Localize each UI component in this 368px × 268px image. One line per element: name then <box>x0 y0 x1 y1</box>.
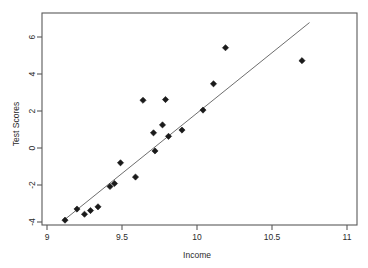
x-tick-label: 9.5 <box>116 232 128 242</box>
x-axis-title: Income <box>183 250 211 260</box>
y-tick-label: -2 <box>27 181 37 189</box>
figure-background <box>0 0 368 268</box>
x-tick-label: 10 <box>192 232 202 242</box>
y-tick-label: -4 <box>27 218 37 226</box>
y-tick-label: 6 <box>27 34 37 39</box>
x-tick-label: 9 <box>45 232 50 242</box>
y-axis-title: Test Scores <box>11 102 21 146</box>
plot-canvas: 99.51010.511 6420-2-4 Income Test Scores <box>0 0 368 268</box>
x-tick-label: 11 <box>343 232 352 242</box>
y-tick-label: 2 <box>27 108 37 113</box>
y-tick-label: 0 <box>27 145 37 150</box>
y-tick-label: 4 <box>27 71 37 76</box>
scatter-plot-figure: 99.51010.511 6420-2-4 Income Test Scores <box>0 0 368 268</box>
x-tick-label: 10.5 <box>264 232 281 242</box>
